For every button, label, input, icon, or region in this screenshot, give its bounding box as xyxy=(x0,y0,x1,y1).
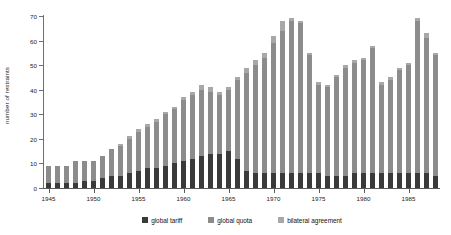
bar-stack xyxy=(253,60,259,188)
y-axis-tick-label: 20 xyxy=(30,135,37,142)
x-axis-tick xyxy=(319,189,320,193)
bar-segment-global-quota xyxy=(397,70,403,173)
bar-stack xyxy=(208,87,214,188)
x-axis-tick xyxy=(184,189,185,193)
bar-segment-global-tariff xyxy=(253,173,259,188)
x-axis-tick xyxy=(94,189,95,193)
bar-segment-global-quota xyxy=(415,21,421,173)
bar-segment-global-tariff xyxy=(163,166,169,188)
bar-segment-global-quota xyxy=(325,87,331,175)
bar-segment-global-tariff xyxy=(235,159,241,188)
bar-stack xyxy=(109,149,115,188)
bar-segment-global-tariff xyxy=(325,176,331,188)
legend-label: global tariff xyxy=(151,217,182,224)
bar-stack xyxy=(100,156,106,188)
bar-segment-global-quota xyxy=(334,77,340,175)
x-axis-tick-label: 1945 xyxy=(42,195,56,202)
bar-stack xyxy=(352,60,358,188)
bar-stack xyxy=(298,21,304,188)
legend-swatch-icon xyxy=(142,217,148,223)
bar-segment-global-quota xyxy=(262,58,268,173)
bar-stack xyxy=(379,82,385,188)
bar-segment-global-tariff xyxy=(82,181,88,188)
bar-segment-global-quota xyxy=(271,43,277,173)
bar-segment-global-tariff xyxy=(271,173,277,188)
x-axis-tick xyxy=(139,189,140,193)
bar-segment-bilateral-agreement xyxy=(280,21,286,31)
bar-segment-global-quota xyxy=(163,114,169,166)
bar-segment-global-tariff xyxy=(307,173,313,188)
bar-stack xyxy=(271,36,277,188)
bar-segment-global-tariff xyxy=(100,178,106,188)
y-axis-tick xyxy=(39,139,43,140)
bar-segment-global-tariff xyxy=(154,168,160,188)
bar-stack xyxy=(370,46,376,189)
bar-segment-global-quota xyxy=(217,95,223,154)
bar-stack xyxy=(172,107,178,188)
bar-stack xyxy=(397,68,403,188)
bar-segment-global-tariff xyxy=(145,168,151,188)
legend-swatch-icon xyxy=(208,217,214,223)
bar-segment-global-quota xyxy=(154,122,160,169)
bar-stack xyxy=(406,63,412,188)
bar-stack xyxy=(127,136,133,188)
bar-segment-global-quota xyxy=(316,85,322,173)
bar-segment-global-tariff xyxy=(208,154,214,188)
legend-item: bilateral agreement xyxy=(278,217,342,224)
bar-segment-global-quota xyxy=(406,65,412,173)
bar-stack xyxy=(190,92,196,188)
bar-segment-global-tariff xyxy=(343,176,349,188)
y-axis-tick-label: 60 xyxy=(30,37,37,44)
bar-segment-global-tariff xyxy=(136,171,142,188)
y-axis-tick xyxy=(39,90,43,91)
legend-item: global quota xyxy=(208,217,252,224)
bar-segment-global-quota xyxy=(145,127,151,169)
bar-segment-global-quota xyxy=(208,92,214,153)
bar-stack xyxy=(289,18,295,188)
bar-stack xyxy=(388,77,394,188)
plot-area: 010203040506070 xyxy=(44,16,440,188)
bar-segment-global-quota xyxy=(280,31,286,174)
bar-stack xyxy=(325,85,331,188)
bar-stack xyxy=(181,97,187,188)
x-axis-tick xyxy=(409,189,410,193)
bar-segment-global-quota xyxy=(370,48,376,173)
x-axis-tick-label: 1965 xyxy=(222,195,236,202)
y-axis-tick-label: 70 xyxy=(30,13,37,20)
bar-segment-global-tariff xyxy=(91,181,97,188)
bar-segment-global-tariff xyxy=(388,173,394,188)
bar-stack xyxy=(136,129,142,188)
bar-segment-global-tariff xyxy=(199,156,205,188)
y-axis-label-text: number of restraints xyxy=(4,66,11,123)
x-axis-tick xyxy=(49,189,50,193)
x-axis-tick xyxy=(229,189,230,193)
bar-segment-global-quota xyxy=(199,90,205,156)
bar-segment-global-quota xyxy=(64,166,70,183)
bar-segment-global-tariff xyxy=(289,173,295,188)
bar-segment-global-quota xyxy=(109,149,115,176)
x-axis-tick-label: 1975 xyxy=(312,195,326,202)
bar-stack xyxy=(415,18,421,188)
x-axis-tick-label: 1970 xyxy=(267,195,281,202)
bar-stack xyxy=(199,85,205,188)
chart-legend: global tariffglobal quotabilateral agree… xyxy=(44,214,440,226)
bar-stack xyxy=(262,53,268,188)
bar-stack xyxy=(145,124,151,188)
bar-stack xyxy=(334,75,340,188)
bar-stack xyxy=(55,166,61,188)
bar-stack xyxy=(64,166,70,188)
legend-label: global quota xyxy=(217,217,252,224)
y-axis-tick xyxy=(39,65,43,66)
x-axis-tick-label: 1960 xyxy=(177,195,191,202)
bar-segment-global-quota xyxy=(379,85,385,173)
bar-segment-global-quota xyxy=(172,109,178,163)
bar-stack xyxy=(235,77,241,188)
bar-stack xyxy=(46,166,52,188)
bar-stack xyxy=(361,58,367,188)
bar-segment-global-tariff xyxy=(55,183,61,188)
bar-segment-global-quota xyxy=(298,23,304,173)
bar-segment-global-quota xyxy=(100,156,106,178)
y-axis-tick xyxy=(39,114,43,115)
bar-stack xyxy=(82,161,88,188)
bar-stack xyxy=(280,21,286,188)
